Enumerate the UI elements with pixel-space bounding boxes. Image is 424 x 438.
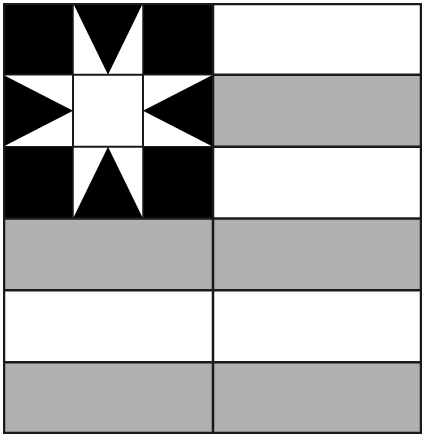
flag-graphic <box>3 3 422 434</box>
quilt-flag <box>3 3 422 434</box>
star-center <box>73 75 143 147</box>
